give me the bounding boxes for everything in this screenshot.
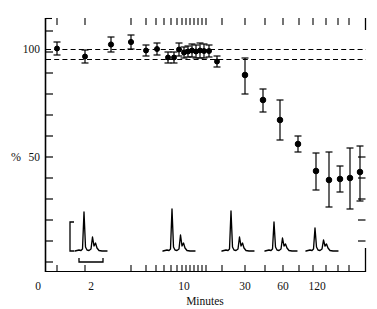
chromatogram-trace [306, 228, 338, 251]
data-point [347, 148, 354, 209]
chart-canvas: 100 50 % 0 2 10 30 60 120 Minutes [0, 0, 377, 309]
data-point [357, 146, 364, 201]
data-series-recovery [54, 35, 364, 209]
data-point [260, 89, 267, 112]
plot-frame [46, 18, 367, 272]
horizontal-time-bracket [79, 258, 103, 262]
x-tick-label-120: 120 [308, 280, 326, 292]
x-tick-label-0: 0 [35, 280, 41, 292]
y-tick-label-100: 100 [23, 43, 41, 55]
x-axis-title: Minutes [186, 295, 224, 307]
data-point [326, 152, 333, 207]
data-point [242, 58, 249, 94]
y-axis-title: % [11, 150, 21, 164]
data-point [295, 136, 302, 152]
x-tick-label-2: 2 [88, 280, 94, 292]
data-point [143, 45, 150, 56]
x-axis-top-ticks [57, 18, 349, 25]
data-point [206, 45, 213, 57]
chromatogram-trace [75, 212, 107, 251]
inset-chromatograms [75, 209, 338, 251]
data-point [54, 42, 61, 55]
chromatogram-trace [265, 222, 297, 251]
data-point [171, 52, 178, 63]
y-axis-ticks [46, 31, 54, 262]
figure-container: 100 50 % 0 2 10 30 60 120 Minutes [0, 0, 377, 309]
data-point [214, 56, 221, 67]
data-point [277, 100, 284, 140]
data-point [313, 153, 320, 190]
y-tick-label-50: 50 [29, 151, 41, 163]
vertical-scale-bracket [70, 222, 74, 251]
x-tick-label-60: 60 [277, 280, 289, 292]
data-point [82, 50, 89, 63]
data-point [337, 166, 344, 192]
chromatogram-trace [222, 211, 254, 251]
chromatogram-trace [163, 209, 195, 251]
data-point [165, 52, 172, 63]
x-tick-label-10: 10 [178, 280, 190, 292]
data-point [128, 35, 135, 49]
data-point [154, 43, 161, 55]
x-tick-label-30: 30 [239, 280, 251, 292]
